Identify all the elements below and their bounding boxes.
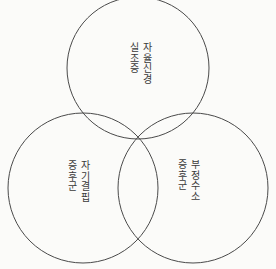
label-top-primary: 자율신경 xyxy=(141,42,152,84)
label-bottom-left-secondary: 증후군 xyxy=(66,160,77,192)
label-group-top: 자율신경 실조증 xyxy=(128,42,152,84)
label-bottom-right-secondary: 증후군 xyxy=(176,159,187,191)
label-bottom-right-primary: 부정수소 xyxy=(189,159,200,201)
label-bottom-left-primary: 자기결핍 xyxy=(79,160,90,202)
label-top-secondary: 실조증 xyxy=(128,42,139,74)
label-group-bottom-left: 자기결핍 증후군 xyxy=(66,160,90,202)
venn-circles-canvas xyxy=(0,0,276,269)
label-group-bottom-right: 부정수소 증후군 xyxy=(176,159,200,201)
venn-diagram-figure: 자율신경 실조증 자기결핍 증후군 부정수소 증후군 xyxy=(0,0,276,269)
